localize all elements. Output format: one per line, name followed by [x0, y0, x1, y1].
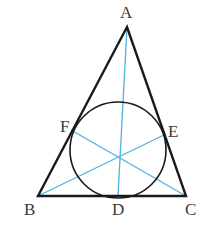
triangle-ABC [38, 27, 186, 196]
label-C: C [185, 200, 196, 219]
incircle [70, 102, 166, 198]
label-B: B [24, 200, 35, 219]
label-F: F [60, 117, 69, 136]
geometry-diagram: A B C D E F [0, 0, 212, 232]
label-E: E [168, 122, 178, 141]
label-A: A [120, 3, 133, 22]
cevian-BE [38, 134, 166, 196]
cevian-AD [118, 27, 127, 196]
label-D: D [112, 200, 124, 219]
